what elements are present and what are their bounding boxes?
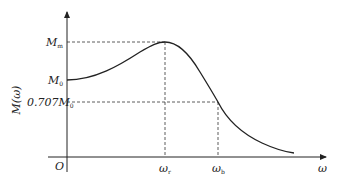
m0-label: M0 bbox=[47, 74, 63, 87]
bandwidth-level-label: 0.707M0 bbox=[27, 96, 74, 109]
wb-label: ωb bbox=[212, 162, 225, 175]
frequency-response-diagram: M(ω) Mm M0 0.707M0 O ωr ωb ω bbox=[0, 0, 337, 184]
magnitude-curve bbox=[67, 42, 294, 153]
x-axis-label: ω bbox=[318, 162, 327, 175]
y-axis-label: M(ω) bbox=[10, 86, 23, 116]
origin-label: O bbox=[55, 160, 64, 173]
mm-label: Mm bbox=[45, 36, 63, 49]
wr-label: ωr bbox=[159, 162, 171, 175]
